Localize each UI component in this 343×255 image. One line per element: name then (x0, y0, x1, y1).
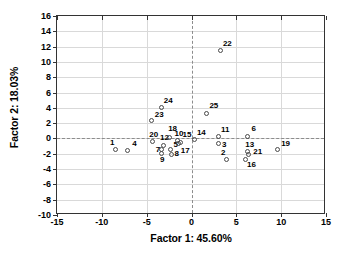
tick-label-x: -10 (95, 217, 108, 227)
data-point (246, 152, 251, 157)
tick-label-y: 10 (41, 57, 51, 67)
data-point (150, 139, 155, 144)
tick-mark-x-top (192, 16, 193, 20)
gridline-horizontal (57, 93, 324, 94)
data-point-label: 3 (222, 141, 226, 149)
tick-mark-y (53, 62, 57, 63)
gridline-horizontal (57, 62, 324, 63)
tick-label-y: -6 (43, 179, 51, 189)
data-point (204, 111, 209, 116)
plot-clip-region: 1234567891011121314151617181920212223242… (57, 16, 324, 213)
data-point (159, 105, 164, 110)
data-point-label: 19 (281, 140, 290, 148)
tick-mark-x-top (102, 16, 103, 20)
tick-label-y: -2 (43, 149, 51, 159)
data-point (218, 48, 223, 53)
tick-mark-x-top (326, 16, 327, 20)
tick-label-y: 0 (46, 133, 51, 143)
tick-label-y: 14 (41, 26, 51, 36)
data-point-label: 20 (149, 131, 158, 139)
tick-label-y: 6 (46, 88, 51, 98)
gridline-vertical (236, 16, 237, 213)
tick-label-x: 10 (276, 217, 286, 227)
tick-mark-y (53, 31, 57, 32)
tick-label-x: -15 (50, 217, 63, 227)
data-point-label: 11 (221, 126, 229, 134)
data-point (125, 148, 130, 153)
tick-mark-x-top (57, 16, 58, 20)
tick-mark-y (53, 123, 57, 124)
tick-label-x: 5 (234, 217, 239, 227)
data-point-label: 23 (155, 111, 164, 119)
tick-mark-y (53, 47, 57, 48)
tick-label-y: -8 (43, 195, 51, 205)
data-point-label: 8 (174, 150, 178, 158)
gridline-horizontal (57, 77, 324, 78)
gridline-vertical (281, 16, 282, 213)
tick-mark-x-top (281, 16, 282, 20)
data-point-label: 2 (221, 149, 225, 157)
tick-label-x: -5 (143, 217, 151, 227)
y-axis-title: Factor 2: 18.03% (6, 0, 22, 215)
data-point (161, 143, 166, 148)
data-point-label: 1 (110, 139, 114, 147)
data-point (192, 137, 197, 142)
data-point-label: 25 (209, 102, 218, 110)
tick-mark-y (53, 93, 57, 94)
gridline-horizontal (57, 184, 324, 185)
tick-mark-y (53, 77, 57, 78)
gridline-horizontal (57, 154, 324, 155)
tick-label-y: -10 (38, 210, 51, 220)
data-point-label: 6 (252, 125, 256, 133)
data-point (216, 141, 221, 146)
gridline-horizontal (57, 47, 324, 48)
data-point-label: 15 (183, 131, 192, 139)
gridline-horizontal (57, 108, 324, 109)
scatter-plot-figure: Factor 2: 18.03% Factor 1: 45.60% 123456… (0, 0, 343, 255)
data-point-label: 9 (160, 156, 164, 164)
gridline-horizontal (57, 31, 324, 32)
data-point (167, 135, 172, 140)
tick-label-x: 15 (321, 217, 331, 227)
tick-mark-y (53, 200, 57, 201)
data-point-label: 14 (197, 129, 206, 137)
gridline-horizontal (57, 169, 324, 170)
data-point-label: 24 (164, 97, 173, 105)
tick-label-y: 4 (46, 103, 51, 113)
data-point-label: 21 (253, 148, 262, 156)
gridline-vertical (102, 16, 103, 213)
gridline-horizontal (57, 200, 324, 201)
tick-mark-y (53, 154, 57, 155)
data-point-label: 16 (247, 161, 256, 169)
tick-mark-x-top (236, 16, 237, 20)
data-point-label: 4 (132, 140, 136, 148)
tick-label-x: 0 (189, 217, 194, 227)
tick-mark-y (53, 184, 57, 185)
tick-mark-y (53, 169, 57, 170)
gridline-vertical (147, 16, 148, 213)
tick-label-y: 16 (41, 11, 51, 21)
gridline-horizontal (57, 123, 324, 124)
x-axis-title: Factor 1: 45.60% (56, 232, 326, 244)
tick-label-y: 12 (41, 42, 51, 52)
tick-label-y: -4 (43, 164, 51, 174)
data-point (224, 157, 229, 162)
data-point-label: 18 (168, 125, 177, 133)
tick-mark-y (53, 138, 57, 139)
tick-label-y: 8 (46, 72, 51, 82)
data-point (113, 147, 118, 152)
tick-label-y: 2 (46, 118, 51, 128)
data-point (275, 147, 280, 152)
reference-line-x-zero (192, 16, 193, 213)
tick-mark-y (53, 108, 57, 109)
plot-area: 1234567891011121314151617181920212223242… (56, 15, 325, 214)
data-point-label: 17 (181, 147, 190, 155)
tick-mark-x-top (147, 16, 148, 20)
data-point-label: 22 (223, 40, 232, 48)
